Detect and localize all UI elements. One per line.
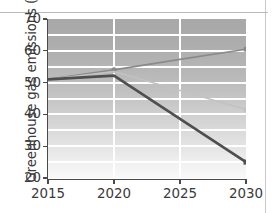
- page-sheet: Greenhouse gas emissions (Gt) 2030405060…: [0, 0, 279, 213]
- series-marker: [244, 160, 249, 165]
- series-line: [48, 49, 246, 79]
- series-steep-decline-series: [48, 76, 249, 165]
- series-marker: [243, 107, 248, 112]
- series-rising-series: [48, 47, 249, 80]
- line-chart-figure: Greenhouse gas emissions (Gt) 2030405060…: [0, 0, 279, 213]
- series-line: [48, 76, 246, 162]
- series-overlay: [0, 0, 279, 213]
- series-marker: [243, 47, 248, 52]
